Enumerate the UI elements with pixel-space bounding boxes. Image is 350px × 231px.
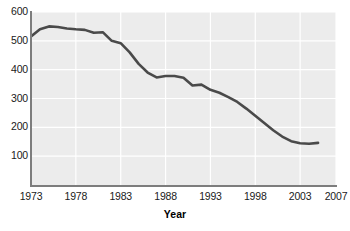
y-axis-line <box>30 11 32 186</box>
y-tick-label: 200 <box>2 121 28 132</box>
line-chart: 600500400300200100 197319781983198819931… <box>0 0 350 231</box>
y-tick-label: 400 <box>2 64 28 75</box>
y-tick-label: 300 <box>2 93 28 104</box>
y-tick-label: 100 <box>2 150 28 161</box>
x-axis-tick-labels: 19731978198319881993199820032007 <box>0 190 350 204</box>
y-tick-label: 600 <box>2 6 28 17</box>
x-tick-label: 2007 <box>319 190 350 202</box>
x-tick-label: 1978 <box>59 190 93 202</box>
data-line-series <box>31 26 318 143</box>
horizontal-gridlines <box>31 12 336 156</box>
y-tick-label: 500 <box>2 35 28 46</box>
x-tick-label: 2003 <box>283 190 317 202</box>
x-axis-line <box>30 185 337 187</box>
x-tick-label: 1988 <box>149 190 183 202</box>
x-tick-label: 1983 <box>104 190 138 202</box>
x-tick-label: 1973 <box>14 190 48 202</box>
plot-svg <box>31 12 336 185</box>
x-axis-title: Year <box>0 208 350 220</box>
plot-area <box>31 12 336 185</box>
x-tick-label: 1998 <box>238 190 272 202</box>
x-tick-label: 1993 <box>193 190 227 202</box>
